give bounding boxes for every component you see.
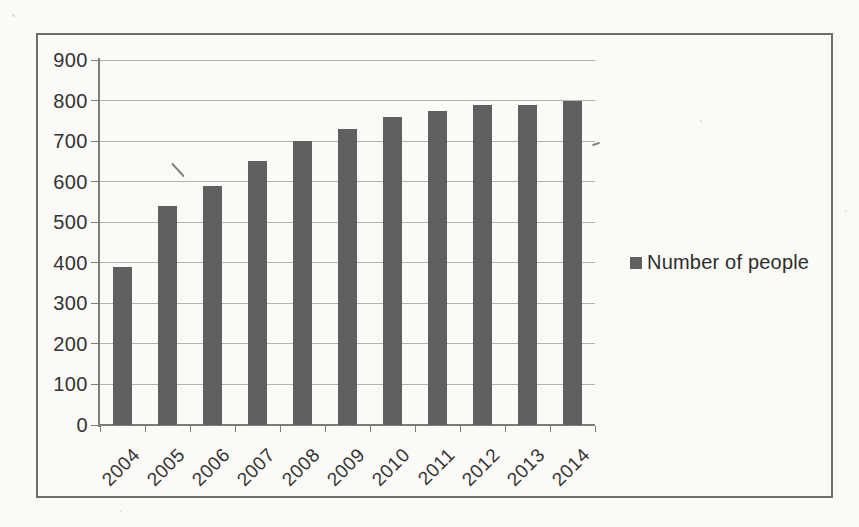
x-axis-tick: [415, 426, 416, 432]
bar-2009: [338, 129, 357, 425]
legend-label: Number of people: [647, 251, 809, 274]
x-axis-tick: [190, 426, 191, 432]
scan-speck: [120, 510, 122, 512]
y-tick-label: 700: [34, 131, 88, 151]
x-axis-tick: [550, 426, 551, 432]
y-tick-label: 600: [34, 172, 88, 192]
legend: Number of people: [630, 251, 809, 274]
y-axis-tick: [91, 60, 98, 61]
bar-2012: [473, 105, 492, 425]
y-tick-label: 300: [34, 293, 88, 313]
x-axis-tick: [370, 426, 371, 432]
scan-speck: [12, 14, 15, 17]
scanned-chart-page: Number of people 01002003004005006007008…: [0, 0, 859, 527]
x-axis-tick: [595, 426, 596, 432]
bar-2014: [563, 101, 582, 425]
bar-2004: [113, 267, 132, 425]
bar-2008: [293, 141, 312, 425]
bar-2013: [518, 105, 537, 425]
y-axis-tick: [91, 384, 98, 385]
bar-2011: [428, 111, 447, 425]
x-axis-tick: [460, 426, 461, 432]
y-tick-label: 800: [34, 91, 88, 111]
y-tick-label: 0: [34, 415, 88, 435]
y-tick-label: 500: [34, 212, 88, 232]
x-axis-tick: [505, 426, 506, 432]
x-axis-tick: [100, 426, 101, 432]
y-axis-tick: [91, 100, 98, 101]
x-axis-tick: [325, 426, 326, 432]
y-tick-label: 100: [34, 374, 88, 394]
y-axis-tick: [91, 262, 98, 263]
y-tick-label: 900: [34, 50, 88, 70]
y-axis-tick: [91, 141, 98, 142]
bar-2010: [383, 117, 402, 425]
y-axis-tick: [91, 181, 98, 182]
y-axis: [98, 58, 100, 427]
bar-2006: [203, 186, 222, 425]
y-axis-tick: [91, 425, 98, 426]
legend-square-marker-icon: [630, 257, 642, 269]
gridline: [100, 60, 595, 61]
scan-speck: [845, 210, 847, 212]
y-axis-tick: [91, 343, 98, 344]
y-axis-tick: [91, 222, 98, 223]
y-tick-label: 200: [34, 334, 88, 354]
scan-speck: [700, 120, 702, 122]
bar-2007: [248, 161, 267, 425]
y-axis-tick: [91, 303, 98, 304]
bar-2005: [158, 206, 177, 425]
x-axis-tick: [235, 426, 236, 432]
x-axis-tick: [280, 426, 281, 432]
gridline: [100, 100, 595, 101]
y-tick-label: 400: [34, 253, 88, 273]
x-axis-tick: [145, 426, 146, 432]
